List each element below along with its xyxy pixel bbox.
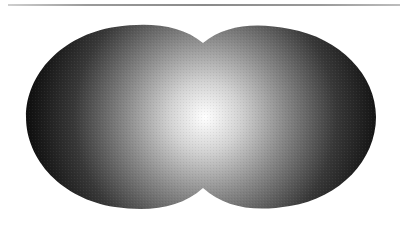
peanut-shape — [26, 25, 376, 209]
peanut-shape-graphic — [0, 0, 406, 232]
figure-canvas — [0, 0, 406, 232]
